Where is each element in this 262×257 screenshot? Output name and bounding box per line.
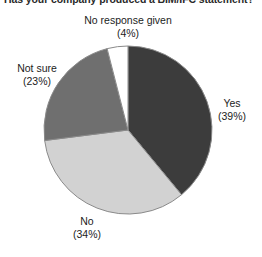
chart-page: Has your company produced a BIM/IFC stat… (0, 0, 262, 257)
slice-label-no-response-given: No response given (4%) (63, 14, 193, 39)
slice-label-no-response-given-percent: (4%) (63, 27, 193, 40)
slice-label-no-percent: (34%) (63, 228, 111, 241)
slice-label-not-sure-percent: (23%) (4, 75, 70, 88)
slice-label-yes-name: Yes (206, 97, 258, 110)
pie-chart: No response given (4%) Yes (39%) Not sur… (0, 0, 262, 257)
slice-label-not-sure: Not sure (23%) (4, 62, 70, 87)
slice-label-yes-percent: (39%) (206, 110, 258, 123)
slice-label-yes: Yes (39%) (206, 97, 258, 122)
slice-label-no-response-given-name: No response given (63, 14, 193, 27)
slice-label-no-name: No (63, 215, 111, 228)
slice-label-no: No (34%) (63, 215, 111, 240)
slice-label-not-sure-name: Not sure (4, 62, 70, 75)
